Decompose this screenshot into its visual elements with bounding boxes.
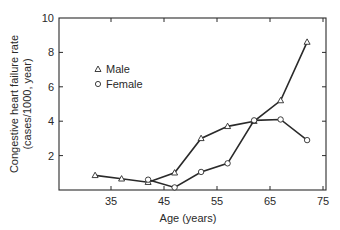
- circle-marker-icon: [145, 177, 150, 182]
- x-axis-title: Age (years): [160, 212, 217, 224]
- chart: 3545556575 246810 Male Female Age (years…: [0, 0, 340, 230]
- y-axis-ticks: 246810: [42, 12, 326, 162]
- female-circle-marker-icon: [95, 81, 100, 86]
- y-axis-title: Congestive heart failure rate (cases/100…: [8, 35, 33, 173]
- x-tick-label: 65: [264, 195, 276, 207]
- legend-female-label: Female: [106, 78, 143, 90]
- y-tick-label: 8: [48, 46, 54, 58]
- circle-marker-icon: [198, 169, 203, 174]
- circle-marker-icon: [304, 137, 309, 142]
- circle-marker-icon: [251, 118, 256, 123]
- triangle-marker-icon: [278, 97, 284, 102]
- triangle-marker-icon: [304, 39, 310, 44]
- y-tick-label: 10: [42, 12, 54, 24]
- male-triangle-marker-icon: [95, 66, 101, 72]
- y-tick-label: 2: [48, 150, 54, 162]
- series-male: [92, 39, 310, 185]
- circle-marker-icon: [225, 161, 230, 166]
- y-axis-title-line1: Congestive heart failure rate: [8, 35, 20, 173]
- legend: Male Female: [95, 63, 143, 90]
- x-tick-label: 35: [105, 195, 117, 207]
- x-tick-label: 75: [317, 195, 329, 207]
- x-tick-label: 45: [158, 195, 170, 207]
- y-axis-title-line2: (cases/1000, year): [21, 58, 33, 149]
- legend-male-label: Male: [106, 63, 130, 75]
- plot-border: [59, 18, 326, 190]
- circle-marker-icon: [172, 185, 177, 190]
- plot-frame: [59, 18, 326, 190]
- circle-marker-icon: [278, 117, 283, 122]
- y-tick-label: 4: [48, 115, 54, 127]
- x-axis-ticks: 3545556575: [105, 18, 329, 207]
- x-tick-label: 55: [211, 195, 223, 207]
- data-series: [92, 39, 310, 190]
- series-line: [148, 119, 307, 187]
- y-tick-label: 6: [48, 81, 54, 93]
